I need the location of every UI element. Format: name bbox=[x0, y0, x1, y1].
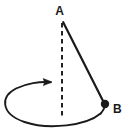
conical-pendulum-diagram: A B bbox=[0, 0, 128, 135]
diagram-canvas: A B bbox=[0, 0, 128, 135]
label-apex-a: A bbox=[55, 4, 64, 18]
pendulum-bob-dot bbox=[101, 100, 109, 108]
orbit-ellipse-path bbox=[5, 82, 100, 126]
rotation-direction-arrow-icon bbox=[43, 79, 52, 86]
pendulum-string-line bbox=[63, 22, 104, 103]
label-bob-b: B bbox=[113, 102, 122, 116]
orbit-tail-hook bbox=[101, 109, 104, 114]
orbit-path-group bbox=[5, 79, 104, 127]
